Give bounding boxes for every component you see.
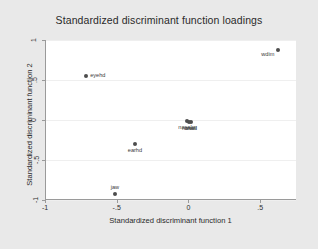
x-tick-label--.5: -.5 [113, 204, 121, 211]
x-tick-label-0: 0 [186, 204, 190, 211]
data-point-label-eyehd: eyehd [90, 73, 105, 79]
gridline-y--.5 [46, 160, 296, 161]
chart-title: Standardized discriminant function loadi… [10, 14, 308, 26]
y-axis-title: Standardized discriminant function 2 [25, 45, 34, 205]
x-tick-0 [188, 200, 189, 203]
data-point-label-earhd: earhd [128, 148, 142, 154]
graph-region: Standardized discriminant function loadi… [10, 6, 308, 243]
plot-area: wdimeyehdearhdjawnasalnnasallcranl [45, 40, 296, 200]
x-tick-.5 [260, 200, 261, 203]
data-point-label-wdim: wdim [261, 52, 274, 58]
data-point-earhd [133, 142, 137, 146]
gridline-y-0 [46, 120, 296, 121]
data-point-wdim [276, 48, 280, 52]
y-tick-1 [42, 40, 45, 41]
gridline-y-.5 [46, 80, 296, 81]
y-tick-label--.5: -.5 [33, 156, 40, 164]
y-tick-0 [42, 120, 45, 121]
x-axis-title: Standardized discriminant function 1 [45, 216, 296, 225]
x-tick--1 [45, 200, 46, 203]
gridline-y-1 [46, 40, 296, 41]
data-point-cranl [189, 120, 193, 124]
y-tick-label-1: 1 [30, 38, 37, 42]
y-tick-.5 [42, 80, 45, 81]
data-point-eyehd [84, 74, 88, 78]
x-tick-label--1: -1 [42, 204, 48, 211]
y-tick--1 [42, 200, 45, 201]
data-point-label-jaw: jaw [111, 185, 119, 191]
x-tick-label-.5: .5 [257, 204, 263, 211]
data-point-label-cranl: cranl [185, 126, 197, 132]
gridline-y--1 [46, 200, 296, 201]
chart-screenshot: Standardized discriminant function loadi… [0, 0, 318, 249]
data-point-jaw [113, 192, 117, 196]
y-tick--.5 [42, 160, 45, 161]
x-tick--.5 [117, 200, 118, 203]
